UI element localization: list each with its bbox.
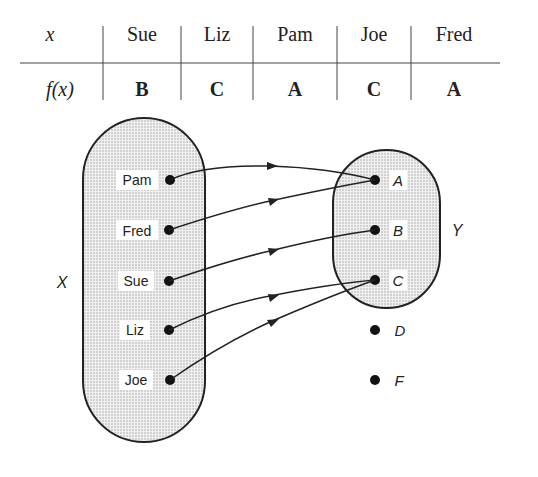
arrowhead-icon (268, 294, 279, 302)
arrowheads (267, 162, 279, 327)
codomain-element-label: C (393, 272, 404, 289)
table-cell-x: Joe (361, 23, 388, 45)
outside-element-label: D (395, 322, 406, 339)
arrowhead-icon (268, 248, 279, 256)
row-header-x: x (45, 23, 55, 45)
table-cell-x: Liz (204, 23, 231, 45)
table-cell-x: Sue (127, 23, 157, 45)
domain-label: X (56, 274, 69, 291)
domain-element-label: Fred (123, 223, 152, 239)
table-cell-fx: A (447, 78, 462, 100)
row-header-fx: f(x) (46, 78, 74, 101)
arrowhead-icon (267, 162, 278, 170)
outside-element-label: F (394, 372, 404, 389)
arrowhead-icon (267, 319, 279, 327)
codomain-element-label: A (392, 172, 403, 189)
arrowhead-icon (268, 198, 279, 206)
codomain-element-label: B (393, 222, 403, 239)
domain-element-label: Pam (123, 172, 152, 188)
outside-point (370, 375, 380, 385)
table-cell-x: Pam (277, 23, 313, 45)
table-cell-fx: C (210, 78, 224, 100)
table-cell-fx: B (135, 78, 148, 100)
outside-point (370, 325, 380, 335)
table-cell-fx: A (288, 78, 303, 100)
codomain-label: Y (452, 222, 464, 239)
domain-element-label: Joe (125, 372, 148, 388)
table-cell-fx: C (367, 78, 381, 100)
domain-element-label: Sue (124, 273, 149, 289)
mapping-table: x f(x) Sue Liz Pam Joe Fred B C A C A (20, 23, 500, 101)
function-diagram: x f(x) Sue Liz Pam Joe Fred B C A C A X … (0, 0, 538, 477)
domain-element-label: Liz (126, 322, 144, 338)
table-cell-x: Fred (436, 23, 473, 45)
